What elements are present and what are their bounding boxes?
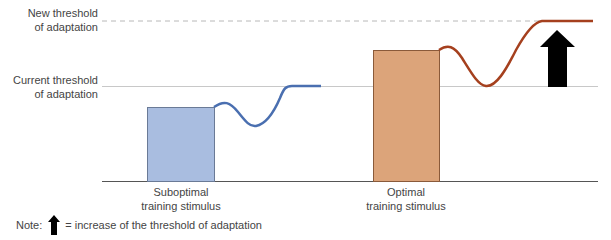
suboptimal-stimulus-label: Suboptimal training stimulus	[130, 185, 232, 213]
threshold-increase-arrow-icon	[540, 30, 575, 87]
current-threshold-label: Current threshold of adaptation	[0, 73, 98, 101]
suboptimal-stimulus-bar	[148, 108, 215, 182]
note-text: = increase of the threshold of adaptatio…	[65, 219, 262, 231]
adaptation-diagram	[0, 0, 611, 240]
up-arrow-icon	[48, 215, 60, 235]
optimal-adaptation-curve	[439, 21, 593, 86]
optimal-stimulus-bar	[374, 51, 440, 182]
note-prefix: Note:	[16, 219, 42, 231]
suboptimal-adaptation-curve	[214, 86, 321, 126]
optimal-stimulus-label: Optimal training stimulus	[354, 185, 458, 213]
new-threshold-label: New threshold of adaptation	[0, 6, 98, 34]
note: Note: = increase of the threshold of ada…	[16, 215, 262, 235]
